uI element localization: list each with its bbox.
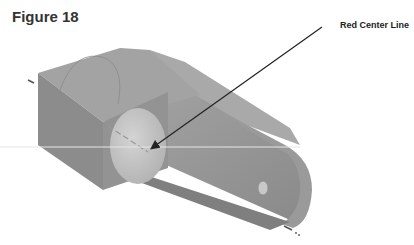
axis-dash-upper xyxy=(28,80,34,83)
arm-small-hole xyxy=(258,181,268,195)
part-diagram xyxy=(0,0,414,245)
